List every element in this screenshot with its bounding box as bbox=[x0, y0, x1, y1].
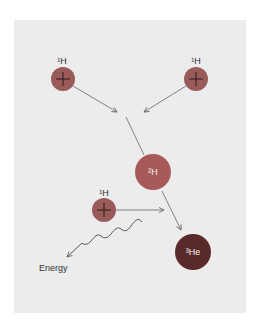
label-h1-top-left: ¹H bbox=[57, 57, 67, 66]
proton-top-right bbox=[184, 67, 208, 91]
label-h1-lower: ¹H bbox=[99, 189, 109, 198]
proton-top-left bbox=[51, 67, 75, 91]
energy-label: Energy bbox=[39, 263, 68, 273]
line-merge-to-h2 bbox=[126, 117, 144, 155]
arrow-h1-right-to-merge bbox=[144, 86, 186, 112]
arrow-h2-to-he3 bbox=[162, 191, 181, 230]
proton-lower bbox=[92, 198, 116, 222]
label-he3: ³He bbox=[186, 248, 201, 257]
energy-wave-arrow bbox=[67, 219, 142, 257]
arrow-h1-left-to-merge bbox=[73, 86, 117, 112]
label-h2: ²H bbox=[148, 168, 158, 177]
label-h1-top-right: ¹H bbox=[191, 57, 201, 66]
